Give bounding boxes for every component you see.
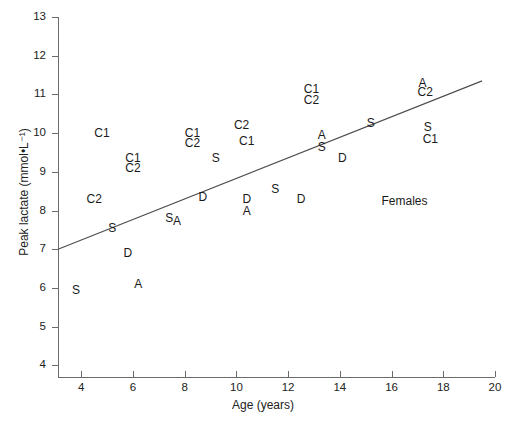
- data-point-c1: C1: [423, 133, 438, 145]
- data-point-c2: C2: [304, 94, 319, 106]
- data-point-s: S: [367, 117, 375, 129]
- data-point-c1: C1: [239, 135, 254, 147]
- data-point-c2: C2: [234, 119, 249, 131]
- data-point-d: D: [338, 152, 347, 164]
- data-point-s: S: [212, 152, 220, 164]
- data-point-s: S: [318, 141, 326, 153]
- regression-line-segment: [58, 81, 482, 249]
- scatter-plot-figure: 45678910111213 468101214161820 Peak lact…: [0, 0, 526, 425]
- data-point-a: A: [173, 215, 181, 227]
- data-point-c2: C2: [185, 137, 200, 149]
- data-point-d: D: [198, 191, 207, 203]
- data-point-c2: C2: [87, 193, 102, 205]
- regression-line: [0, 0, 526, 425]
- group-annotation-females: Females: [381, 194, 427, 208]
- data-point-a: A: [134, 278, 142, 290]
- data-point-a: A: [243, 205, 251, 217]
- data-point-d: D: [123, 247, 132, 259]
- data-point-s: S: [72, 284, 80, 296]
- data-point-d: D: [297, 193, 306, 205]
- data-point-s: S: [271, 183, 279, 195]
- data-point-s: S: [108, 222, 116, 234]
- data-point-c2: C2: [125, 162, 140, 174]
- data-point-c2: C2: [418, 86, 433, 98]
- data-point-c1: C1: [94, 127, 109, 139]
